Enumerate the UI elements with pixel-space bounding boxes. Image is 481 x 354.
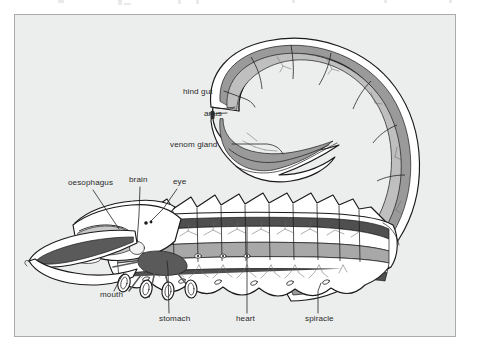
venom-gland-ducts xyxy=(243,133,277,151)
label-mouth: mouth xyxy=(100,290,123,299)
median-eye xyxy=(144,221,148,225)
telson-and-sting xyxy=(211,107,340,182)
crumb-mark xyxy=(118,0,122,5)
label-stomach: stomach xyxy=(159,314,190,323)
label-heart: heart xyxy=(236,314,256,323)
crumb-mark xyxy=(58,0,64,3)
crumb-mark xyxy=(292,0,295,3)
label-anus: anus xyxy=(204,109,222,118)
clipped-text-remnants xyxy=(0,0,481,9)
crumb-mark xyxy=(449,0,452,3)
label-venom-gland: venom gland xyxy=(170,140,217,149)
figure-panel: .ol { stroke:#1a1a1a; stroke-width:1.15;… xyxy=(14,14,456,337)
label-eye: eye xyxy=(173,177,187,186)
crumb-mark xyxy=(384,0,387,3)
crumb-mark xyxy=(124,3,131,5)
crumb-mark xyxy=(178,0,181,4)
label-spiracle: spiracle xyxy=(305,314,334,323)
label-oesophagus: oesophagus xyxy=(68,178,113,187)
crumb-mark xyxy=(196,0,199,4)
scorpion-anatomy-illustration: .ol { stroke:#1a1a1a; stroke-width:1.15;… xyxy=(15,15,455,336)
figure-page: .ol { stroke:#1a1a1a; stroke-width:1.15;… xyxy=(0,0,481,354)
label-hind-gut: hind gut xyxy=(183,87,213,96)
label-brain: brain xyxy=(129,175,148,184)
